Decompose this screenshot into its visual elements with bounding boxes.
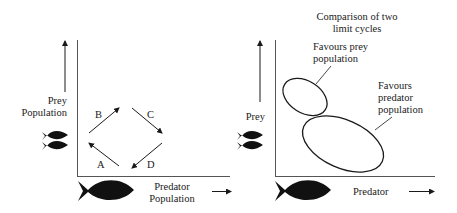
- predator-prey-diagram: Prey Population B C A D Predator Populat…: [0, 0, 457, 213]
- small-cycle-label-line1: Favours prey: [313, 41, 369, 52]
- cycle-label-a: A: [97, 159, 105, 170]
- left-y-axis-label-line2: Population: [21, 107, 67, 118]
- cycle-label-b: B: [95, 109, 102, 120]
- left-x-axis-label-line2: Population: [149, 193, 195, 204]
- right-y-axis-label: Prey: [246, 111, 266, 122]
- right-x-axis-label: Predator: [353, 186, 389, 197]
- small-cycle-label-line2: population: [313, 53, 359, 64]
- right-title-line2: limit cycles: [333, 23, 382, 34]
- cycle-label-d: D: [147, 159, 155, 170]
- left-panel: Prey Population B C A D Predator Populat…: [21, 40, 231, 204]
- large-cycle-label-line1: Favours: [378, 80, 412, 91]
- large-cycle-leader-line: [375, 117, 392, 130]
- cycle-label-c: C: [147, 109, 154, 120]
- small-cycle-leader-line: [316, 66, 331, 84]
- large-cycle-label-line2: predator: [378, 92, 413, 103]
- left-x-axis-label-line1: Predator: [154, 181, 190, 192]
- right-title-line1: Comparison of two: [316, 11, 397, 22]
- large-limit-cycle: [294, 105, 392, 184]
- predator-fish-icon: [275, 180, 331, 201]
- predator-fish-icon: [78, 180, 134, 201]
- left-y-axis-label-line1: Prey: [48, 95, 68, 106]
- population-cycle: B C A D: [89, 108, 162, 170]
- right-panel: Comparison of two limit cycles Prey Favo…: [237, 11, 435, 201]
- prey-fish-icon: [42, 131, 68, 150]
- cycle-arrow-b-icon: [89, 108, 119, 133]
- prey-fish-icon: [237, 131, 263, 150]
- large-cycle-label-line3: population: [378, 104, 424, 115]
